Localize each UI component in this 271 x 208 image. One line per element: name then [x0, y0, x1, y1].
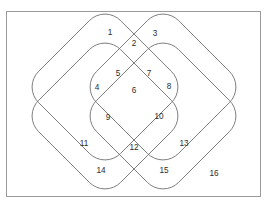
venn-diagram-canvas: 12345678910111213141516	[0, 0, 271, 208]
region-label-12: 12	[129, 143, 139, 152]
region-label-6: 6	[132, 86, 137, 95]
region-label-14: 14	[96, 166, 106, 175]
region-label-9: 9	[106, 113, 111, 122]
set-a-outer-upper-left	[23, 5, 187, 169]
region-label-10: 10	[154, 112, 164, 121]
region-label-3: 3	[153, 29, 158, 38]
region-label-1: 1	[108, 28, 113, 37]
region-label-15: 15	[159, 166, 169, 175]
region-label-5: 5	[116, 69, 121, 78]
region-label-16: 16	[209, 169, 219, 178]
region-label-11: 11	[80, 139, 89, 148]
region-label-4: 4	[95, 83, 100, 92]
set-b-outer-upper-right	[81, 5, 245, 169]
venn-diagram-figure: 12345678910111213141516	[0, 0, 271, 208]
region-label-13: 13	[179, 139, 189, 148]
region-label-7: 7	[147, 69, 152, 78]
region-label-8: 8	[167, 82, 172, 91]
region-label-2: 2	[132, 39, 137, 48]
